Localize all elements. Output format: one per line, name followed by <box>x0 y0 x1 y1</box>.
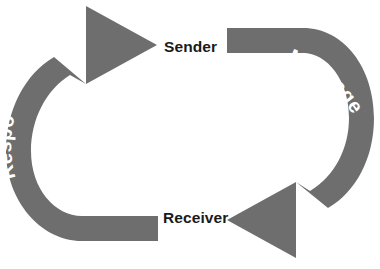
response-arrow-shape <box>6 6 158 241</box>
node-label-sender: Sender <box>164 39 217 55</box>
node-label-receiver: Receiver <box>163 210 228 226</box>
communication-cycle-diagram: Message Response Sender Receiver <box>0 0 380 269</box>
